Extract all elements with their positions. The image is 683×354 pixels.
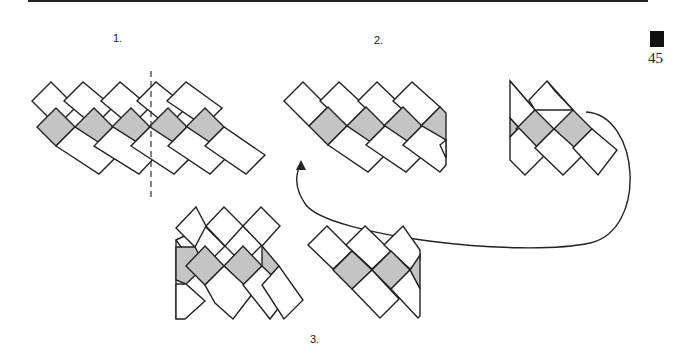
figure-3-right-assembly	[308, 226, 420, 318]
figure-2-left-piece	[284, 82, 446, 172]
figure-1-weave-strip	[32, 71, 265, 200]
figure-3-left-assembly	[176, 207, 303, 319]
figure-2-right-piece	[510, 81, 617, 175]
arrow-head-icon	[296, 160, 306, 170]
diagram-canvas	[0, 0, 683, 354]
